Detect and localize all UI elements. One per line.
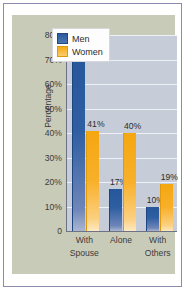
legend-swatch-women-icon <box>57 46 68 57</box>
bar-value-label: 40% <box>124 121 141 132</box>
bar-women-0 <box>86 131 99 231</box>
bar-men-0 <box>72 52 85 231</box>
legend-swatch-men-icon <box>57 33 68 44</box>
y-axis-tick-label: 0 <box>16 225 62 237</box>
bar-men-2 <box>146 207 159 232</box>
x-axis-tick-label: Alone <box>103 234 140 247</box>
y-axis-tick-label: 20% <box>16 176 62 188</box>
bar-value-label: 19% <box>161 172 178 183</box>
y-axis-tick-label: 50% <box>16 103 62 115</box>
legend-item-men: Men <box>57 32 103 45</box>
chart-panel: Percentage 010%20%30%40%50%60%70%80% 73%… <box>12 15 175 274</box>
bar-women-2 <box>160 184 173 231</box>
x-axis-tick-label-line: With <box>139 234 176 247</box>
bar-women-1 <box>123 133 136 231</box>
chart-legend: Men Women <box>52 28 110 62</box>
legend-item-women: Women <box>57 45 103 58</box>
x-axis-tick-label-line: Alone <box>103 234 140 247</box>
legend-label-men: Men <box>72 34 90 44</box>
bar-men-1 <box>109 189 122 231</box>
x-axis-tick-label-line: With <box>66 234 103 247</box>
y-axis-tick-label: 40% <box>16 127 62 139</box>
chart-figure: Percentage 010%20%30%40%50%60%70%80% 73%… <box>3 3 182 287</box>
y-axis-tick-label: 60% <box>16 78 62 90</box>
plot-area: 73%41%17%40%10%19% <box>66 35 177 232</box>
x-axis-tick-label-line: Spouse <box>66 247 103 260</box>
x-axis-tick-label: WithSpouse <box>66 234 103 260</box>
y-axis-tick-labels: 010%20%30%40%50%60%70%80% <box>16 35 62 231</box>
x-axis-tick-labels: WithSpouseAloneWithOthers <box>66 234 176 268</box>
bar-value-label: 41% <box>87 119 104 130</box>
y-axis-tick-label: 30% <box>16 152 62 164</box>
x-axis-tick-label: WithOthers <box>139 234 176 260</box>
legend-label-women: Women <box>72 47 103 57</box>
y-axis-tick-label: 10% <box>16 201 62 213</box>
x-axis-tick-label-line: Others <box>139 247 176 260</box>
